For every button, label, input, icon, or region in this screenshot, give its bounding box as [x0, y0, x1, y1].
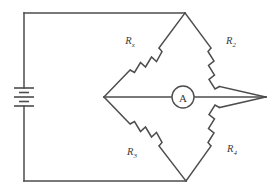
resistor-rx-label: Rx	[124, 35, 135, 49]
ammeter-label: A	[179, 92, 187, 104]
resistor-r4-subscript: 4	[233, 149, 237, 157]
resistor-r3-subscript: 3	[132, 152, 137, 160]
resistor-r4-label: R4	[226, 143, 237, 157]
resistor-r2-subscript: 2	[232, 41, 236, 49]
resistor-r2-zigzag	[208, 48, 220, 89]
bridge-branch: A	[104, 86, 266, 108]
wire-r2-lower-lead	[220, 87, 267, 98]
wire-rx-upper-lead	[159, 13, 185, 48]
resistor-rx-zigzag	[130, 48, 162, 73]
wire-r3-lower-lead	[159, 146, 186, 181]
resistor-rx-subscript: x	[131, 41, 136, 49]
resistor-r4-zigzag	[208, 105, 220, 146]
branch-r2: R2	[185, 13, 266, 97]
schematic-canvas: Rx R2 R3 R4	[0, 0, 278, 193]
wire-rx-lower-lead	[104, 70, 130, 97]
resistor-r3-zigzag	[130, 122, 162, 147]
branch-rx: Rx	[104, 13, 185, 97]
wire-r4-upper-lead	[220, 97, 267, 108]
wire-r4-lower-lead	[186, 146, 211, 181]
wire-r3-upper-lead	[104, 97, 130, 124]
resistor-r2-label: R2	[225, 35, 236, 49]
branch-r4: R4	[186, 97, 266, 181]
wire-r2-upper-lead	[185, 13, 211, 48]
circuit-diagram: Rx R2 R3 R4	[0, 0, 278, 193]
resistor-r3-label: R3	[126, 146, 137, 160]
battery-symbol	[14, 88, 34, 106]
branch-r3: R3	[104, 97, 186, 181]
